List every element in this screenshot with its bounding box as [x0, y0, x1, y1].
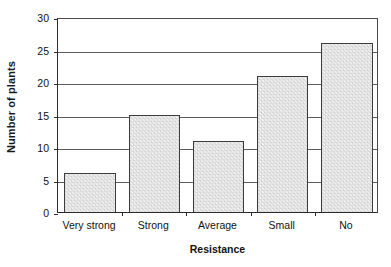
x-tick-label-small: Small [269, 219, 295, 231]
bar-very-strong [64, 173, 115, 212]
bar-strong [129, 115, 180, 213]
x-tick-mark-2 [186, 212, 187, 216]
y-tick-mark-10 [54, 149, 58, 150]
bar-average [193, 141, 244, 213]
y-tick-mark-15 [54, 117, 58, 118]
y-tick-label-5: 5 [43, 175, 49, 187]
y-axis-title-text: Number of plants [5, 60, 17, 152]
x-tick-label-very-strong: Very strong [63, 219, 116, 231]
bar-small [257, 76, 308, 213]
y-axis-tick-labels: 051015202530 [22, 0, 53, 267]
bar-chart-figure: Number of plants 051015202530 Very stron… [0, 0, 391, 267]
x-tick-mark-4 [315, 212, 316, 216]
x-tick-label-no: No [339, 219, 352, 231]
x-tick-mark-3 [251, 212, 252, 216]
y-tick-label-0: 0 [43, 207, 49, 219]
y-tick-mark-0 [54, 214, 58, 215]
x-axis-tick-labels: Very strongStrongAverageSmallNo [57, 219, 378, 235]
y-tick-mark-5 [54, 182, 58, 183]
y-tick-label-20: 20 [37, 77, 49, 89]
y-tick-label-30: 30 [37, 12, 49, 24]
plot-area [57, 18, 378, 213]
x-axis-title: Resistance [57, 243, 378, 255]
y-tick-mark-25 [54, 52, 58, 53]
bar-no [321, 43, 372, 212]
x-tick-label-average: Average [198, 219, 237, 231]
y-tick-label-10: 10 [37, 142, 49, 154]
y-tick-mark-30 [54, 19, 58, 20]
y-tick-label-15: 15 [37, 110, 49, 122]
bar-series [58, 19, 377, 212]
x-tick-mark-1 [122, 212, 123, 216]
x-tick-label-strong: Strong [138, 219, 169, 231]
y-axis-title: Number of plants [0, 0, 22, 213]
y-tick-label-25: 25 [37, 45, 49, 57]
y-tick-mark-20 [54, 84, 58, 85]
